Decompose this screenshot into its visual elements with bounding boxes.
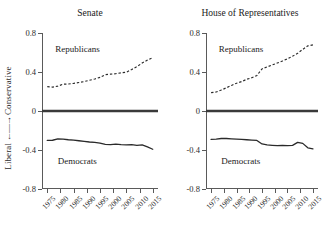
x-axis-tick — [113, 189, 114, 193]
y-axis-tick-label: 0.4 — [189, 67, 200, 77]
y-axis-tick — [38, 33, 42, 34]
x-axis-tick — [47, 189, 48, 193]
bidirectional-arrow-icon: ←—→ — [3, 115, 13, 143]
x-axis-tick — [100, 189, 101, 193]
chart-figure: Liberal←—→Conservative Senate Republican… — [0, 0, 322, 236]
y-axis-tick-label: -0.8 — [23, 184, 36, 194]
series-line-democrats — [211, 139, 313, 149]
y-axis-tick — [202, 150, 206, 151]
plot-area-house: Republicans Democrats 0.80.40-0.4-0.8197… — [206, 33, 318, 189]
y-axis-label-liberal: Liberal — [3, 143, 13, 170]
y-axis-tick-label: -0.4 — [187, 145, 200, 155]
y-axis-tick-label: 0.8 — [25, 28, 36, 38]
series-label-democrats-senate: Democrats — [58, 156, 97, 166]
y-axis-tick — [202, 33, 206, 34]
y-axis-tick — [202, 72, 206, 73]
y-axis-tick-label: -0.8 — [187, 184, 200, 194]
x-axis-tick — [300, 189, 301, 193]
x-axis-tick — [140, 189, 141, 193]
y-axis-tick — [38, 189, 42, 190]
panel-title-house: House of Representatives — [178, 8, 322, 18]
plot-area-senate: Republicans Democrats 0.80.40-0.4-0.8197… — [42, 33, 158, 189]
x-axis-tick — [275, 189, 276, 193]
panel-senate: Senate Republicans Democrats 0.80.40-0.4… — [16, 0, 164, 236]
panel-title-senate: Senate — [16, 8, 164, 18]
x-axis-tick — [74, 189, 75, 193]
x-axis-tick — [287, 189, 288, 193]
y-axis-tick-label: 0 — [32, 106, 36, 116]
x-axis-tick-label: 2015 — [146, 194, 163, 211]
y-axis-tick-label: -0.4 — [23, 145, 36, 155]
x-axis-tick — [262, 189, 263, 193]
y-axis-tick-label: 0.8 — [189, 28, 200, 38]
series-label-democrats-house: Democrats — [221, 156, 260, 166]
x-axis-tick — [313, 189, 314, 193]
x-axis-tick — [237, 189, 238, 193]
y-axis-tick — [38, 111, 42, 112]
x-axis-tick — [249, 189, 250, 193]
x-axis-tick — [211, 189, 212, 193]
x-axis-tick — [224, 189, 225, 193]
series-label-republicans-senate: Republicans — [55, 44, 100, 54]
series-line-republicans — [47, 58, 152, 88]
y-axis-tick — [202, 111, 206, 112]
x-axis-tick-label: 2015 — [306, 194, 322, 211]
y-axis-label-text: Liberal←—→Conservative — [3, 66, 13, 169]
x-axis-tick — [87, 189, 88, 193]
x-axis-tick — [60, 189, 61, 193]
y-axis-tick — [202, 189, 206, 190]
y-axis-tick-label: 0.4 — [25, 67, 36, 77]
y-axis-tick — [38, 150, 42, 151]
y-axis-tick-label: 0 — [196, 106, 200, 116]
series-label-republicans-house: Republicans — [219, 44, 264, 54]
series-line-democrats — [47, 139, 152, 149]
y-axis-label: Liberal←—→Conservative — [0, 34, 17, 202]
y-axis-label-conservative: Conservative — [3, 66, 13, 115]
x-axis-tick — [126, 189, 127, 193]
panel-house: House of Representatives Republicans Dem… — [178, 0, 322, 236]
y-axis-tick — [38, 72, 42, 73]
x-axis-tick — [153, 189, 154, 193]
